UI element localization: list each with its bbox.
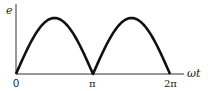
tick-label-2pi: 2π [164,78,177,89]
tick-label-pi: π [89,78,96,89]
tick-label-0: 0 [13,77,19,89]
y-axis-label: e [6,4,13,17]
waveform-curve [16,18,170,74]
rectified-sine-diagram: e ωt 0 π 2π [0,0,210,91]
x-axis-label: ωt [187,67,201,80]
